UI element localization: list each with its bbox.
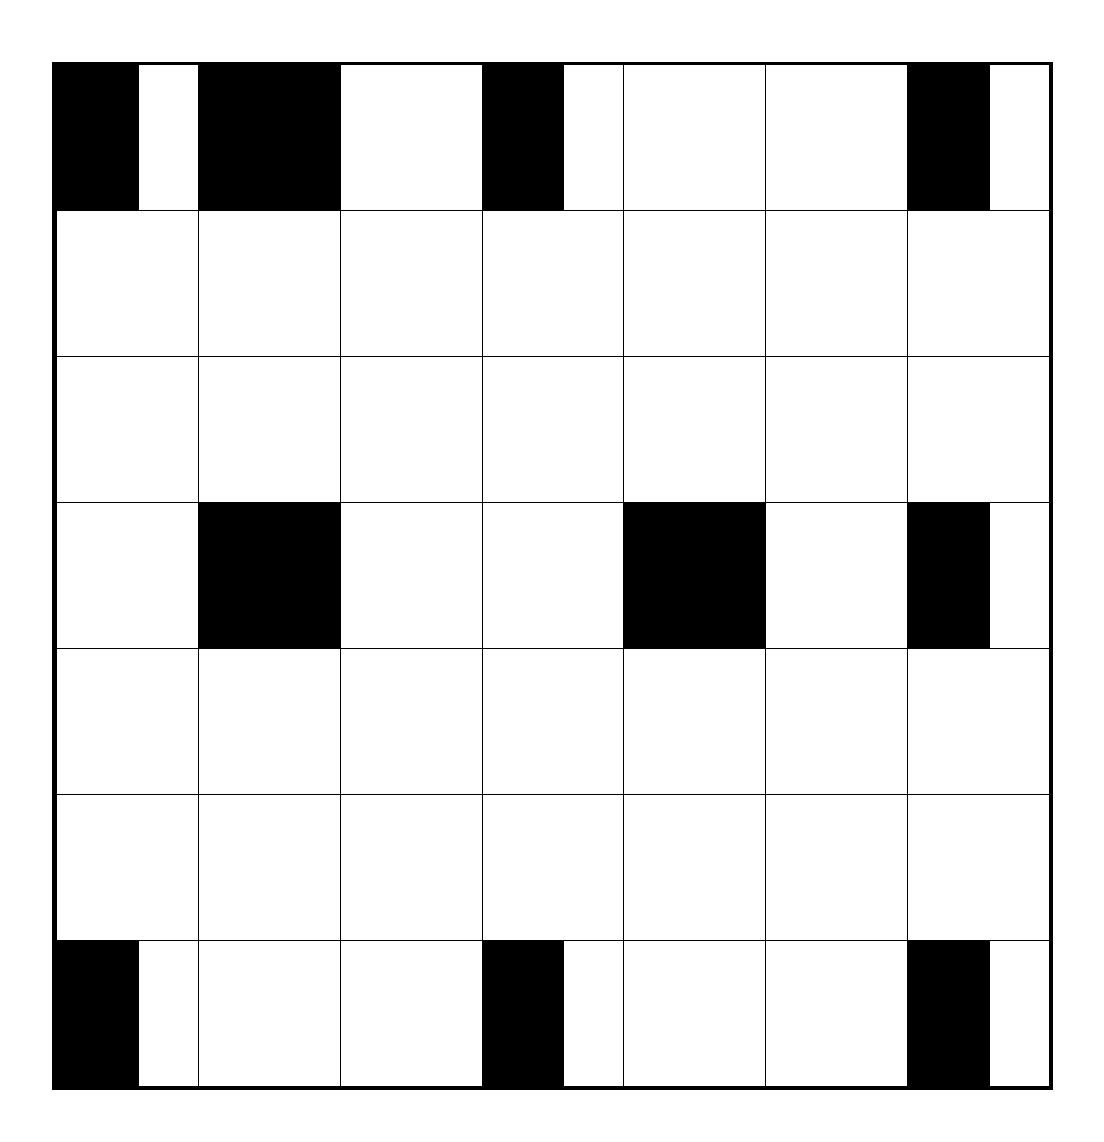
filled-cell <box>199 503 340 648</box>
partially-filled-cell <box>57 941 139 1086</box>
grid-cell <box>340 64 483 211</box>
partially-filled-cell <box>908 503 990 648</box>
grid-cell <box>56 502 199 649</box>
grid-cell <box>907 940 1050 1087</box>
grid-cell <box>198 502 341 649</box>
puzzle-grid <box>52 62 1053 1090</box>
grid-cell <box>623 940 766 1087</box>
partially-filled-cell <box>483 941 565 1086</box>
grid-cell <box>765 940 908 1087</box>
grid-cell <box>482 794 625 941</box>
grid-cell <box>198 356 341 503</box>
grid-cell <box>907 648 1050 795</box>
filled-cell <box>624 503 765 648</box>
grid-cell <box>198 940 341 1087</box>
partially-filled-cell <box>908 65 990 210</box>
grid-cell <box>198 210 341 357</box>
partially-filled-cell <box>908 941 990 1086</box>
grid-cell <box>765 502 908 649</box>
grid-cell <box>198 64 341 211</box>
grid-cell <box>340 940 483 1087</box>
grid-cell <box>907 502 1050 649</box>
grid-cell <box>482 648 625 795</box>
grid-cell <box>623 648 766 795</box>
grid-cell <box>198 794 341 941</box>
grid-cell <box>56 356 199 503</box>
grid-cell <box>623 64 766 211</box>
grid-cell <box>340 502 483 649</box>
grid-cell <box>482 210 625 357</box>
grid-cell <box>907 794 1050 941</box>
grid-cell <box>56 64 199 211</box>
grid-cell <box>56 940 199 1087</box>
grid-cell <box>623 356 766 503</box>
grid-cell <box>340 356 483 503</box>
grid-cell <box>56 210 199 357</box>
grid-cell <box>482 356 625 503</box>
grid-cell <box>198 648 341 795</box>
grid-cell <box>623 210 766 357</box>
partially-filled-cell <box>483 65 565 210</box>
grid-cell <box>765 210 908 357</box>
grid-cell <box>340 648 483 795</box>
partially-filled-cell <box>57 65 139 210</box>
grid-cell <box>907 210 1050 357</box>
grid-cell <box>765 648 908 795</box>
grid-cell <box>907 356 1050 503</box>
grid-cell <box>56 794 199 941</box>
grid-cell <box>340 794 483 941</box>
grid-cell <box>623 502 766 649</box>
grid-cell <box>482 502 625 649</box>
grid-cell <box>765 64 908 211</box>
grid-cell <box>482 940 625 1087</box>
grid-cell <box>623 794 766 941</box>
grid-cell <box>765 794 908 941</box>
grid-cell <box>56 648 199 795</box>
grid-cell <box>340 210 483 357</box>
grid-cell <box>765 356 908 503</box>
grid-cell <box>482 64 625 211</box>
grid-cell <box>907 64 1050 211</box>
filled-cell <box>199 65 340 210</box>
